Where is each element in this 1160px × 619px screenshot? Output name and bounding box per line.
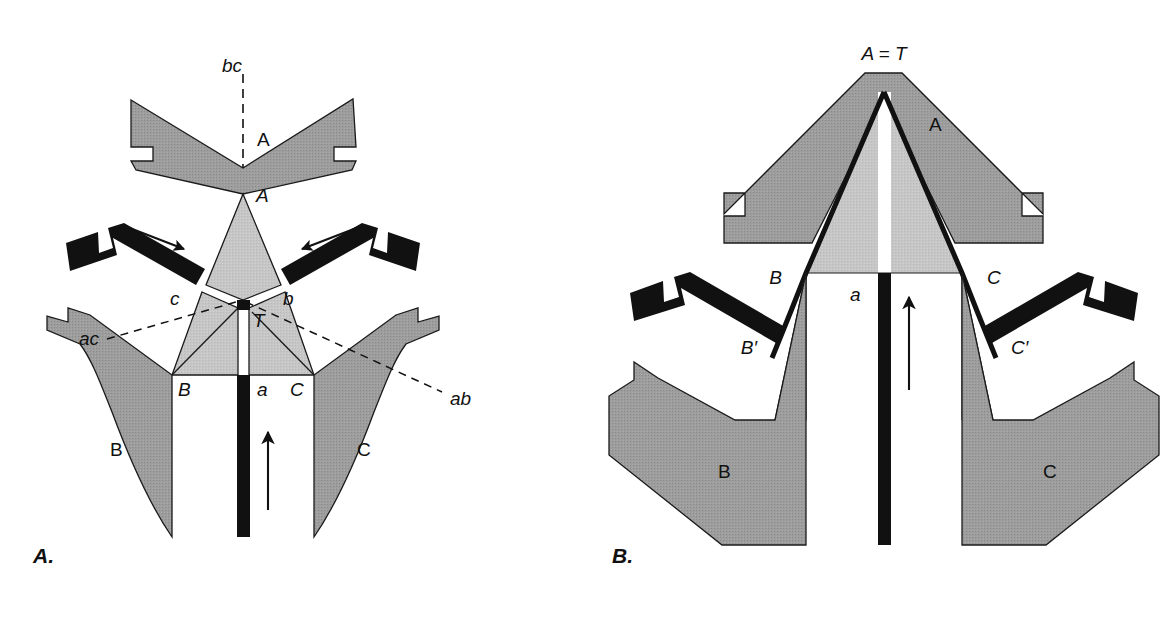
panel-b-junction-label-point-b: B (769, 267, 782, 288)
junction-label-point-b: B (178, 379, 191, 400)
boundary-label-ac: ac (79, 328, 100, 349)
panel-b-junction-label-point-b-prime: B′ (741, 337, 759, 358)
diagram-svg: bc A A c b T ac ab B a C B C A. (0, 0, 1160, 619)
panel-b-block-label-b: B (718, 461, 731, 482)
block-label-b: B (110, 439, 123, 460)
junction-label-t: T (253, 310, 266, 331)
junction-label-arm-b: b (283, 288, 294, 309)
panel-b-block-label-c: C (1043, 461, 1057, 482)
junction-label-arm-a: a (257, 379, 268, 400)
junction-label-arm-c: c (170, 288, 180, 309)
panel-b-junction-label-arm-a: a (850, 284, 861, 305)
panel-label-b: B. (612, 544, 633, 567)
boundary-label-bc: bc (222, 55, 243, 76)
panel-b-junction-label-point-c-prime: C′ (1011, 337, 1030, 358)
panel-b-axis-bar-a (878, 273, 891, 545)
block-label-a: A (257, 129, 270, 150)
axis-bar-a (237, 375, 250, 537)
panel-b-central-slot (878, 92, 891, 273)
figure-root: bc A A c b T ac ab B a C B C A. (0, 0, 1160, 619)
panel-b-apex-label: A = T (860, 43, 908, 64)
panel-label-a: A. (32, 544, 54, 567)
panel-b-block-label-a: A (929, 114, 942, 135)
boundary-label-ab: ab (450, 388, 471, 409)
block-label-c: C (357, 439, 371, 460)
axis-bar-a-stub (237, 300, 250, 310)
junction-label-apex-a: A (255, 185, 269, 206)
junction-label-point-c: C (290, 379, 304, 400)
panel-b-junction-label-point-c: C (987, 267, 1001, 288)
